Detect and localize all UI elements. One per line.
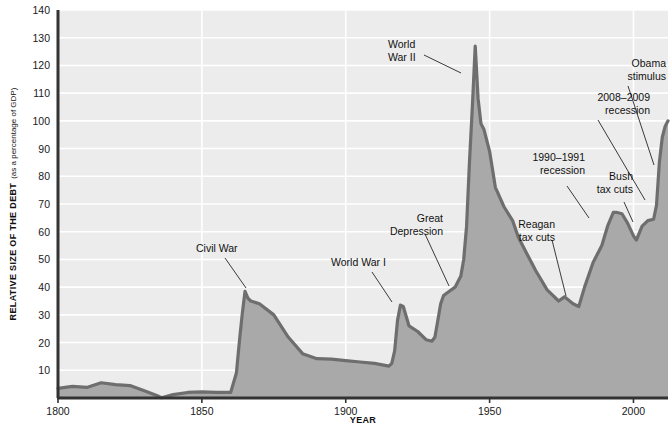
y-axis-title-regular: (as a percentage of GDP) <box>9 87 18 178</box>
annotation-recession-2008-2009-line-1: recession <box>605 104 650 116</box>
annotation-world-war-i: World War I <box>331 256 386 268</box>
annotation-recession-2008-2009-line-0: 2008–2009 <box>597 91 650 103</box>
y-tick-label-10: 10 <box>38 364 50 376</box>
debt-gdp-chart-figure: 102030405060708090100110120130140 180018… <box>0 0 672 429</box>
annotation-obama-stimulus: Obama stimulus <box>627 57 666 82</box>
annotation-great-depression-line-0: Great <box>417 212 443 224</box>
y-tick-label-90: 90 <box>38 143 50 155</box>
annotation-world-war-ii-line-0: World <box>388 38 415 50</box>
x-axis-title: YEAR <box>350 415 377 425</box>
annotation-civil-war-line-0: Civil War <box>196 242 238 254</box>
y-tick-label-50: 50 <box>38 253 50 265</box>
annotation-world-war-ii: World War II <box>388 38 416 63</box>
y-tick-label-80: 80 <box>38 170 50 182</box>
y-axis-title-bold: RELATIVE SIZE OF THE DEBT <box>8 183 18 321</box>
x-tick-label-1800: 1800 <box>46 405 70 417</box>
annotation-obama-stimulus-line-1: stimulus <box>627 70 666 82</box>
annotation-reagan-tax-cuts-line-0: Reagan <box>518 218 555 230</box>
y-tick-label-70: 70 <box>38 198 50 210</box>
y-tick-label-30: 30 <box>38 309 50 321</box>
y-axis-subtitle-group: (as a percentage of GDP) <box>9 87 18 178</box>
annotation-civil-war: Civil War <box>196 242 238 254</box>
annotation-world-war-i-line-0: World War I <box>331 256 386 268</box>
y-tick-label-130: 130 <box>32 32 50 44</box>
y-tick-label-40: 40 <box>38 281 50 293</box>
annotation-bush-tax-cuts-line-1: tax cuts <box>597 183 633 195</box>
y-tick-label-100: 100 <box>32 115 50 127</box>
annotation-recession-1990-1991-line-1: recession <box>540 164 585 176</box>
chart-svg: 102030405060708090100110120130140 180018… <box>0 0 672 429</box>
annotation-recession-1990-1991: 1990–1991 recession <box>532 151 585 176</box>
y-tick-label-120: 120 <box>32 59 50 71</box>
x-tick-label-1850: 1850 <box>190 405 214 417</box>
y-tick-label-110: 110 <box>33 87 50 99</box>
y-tick-label-60: 60 <box>38 226 50 238</box>
annotation-world-war-ii-line-1: War II <box>388 51 416 63</box>
annotation-reagan-tax-cuts-line-1: tax cuts <box>519 231 555 243</box>
annotation-recession-2008-2009: 2008–2009 recession <box>597 91 650 116</box>
y-axis-title: RELATIVE SIZE OF THE DEBT <box>8 183 18 321</box>
x-tick-label-1950: 1950 <box>478 405 502 417</box>
y-tick-label-20: 20 <box>38 337 50 349</box>
annotation-reagan-tax-cuts: Reagan tax cuts <box>518 218 555 243</box>
annotation-bush-tax-cuts-line-0: Bush <box>609 170 633 182</box>
y-tick-label-140: 140 <box>32 4 50 16</box>
annotation-great-depression-line-1: Depression <box>390 225 443 237</box>
annotation-recession-1990-1991-line-0: 1990–1991 <box>532 151 585 163</box>
annotation-obama-stimulus-line-0: Obama <box>632 57 667 69</box>
x-tick-label-2000: 2000 <box>622 405 646 417</box>
